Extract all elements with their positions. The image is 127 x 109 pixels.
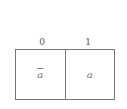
column-header-1: 1	[78, 37, 98, 47]
kmap-cell-1: a	[65, 50, 115, 99]
cell-label-a: a	[87, 69, 93, 80]
cell-label-a-bar: a	[37, 69, 43, 80]
column-header-0: 0	[32, 37, 52, 47]
kmap-cell-0: a	[16, 50, 65, 99]
kmap-grid: a a	[15, 49, 115, 100]
